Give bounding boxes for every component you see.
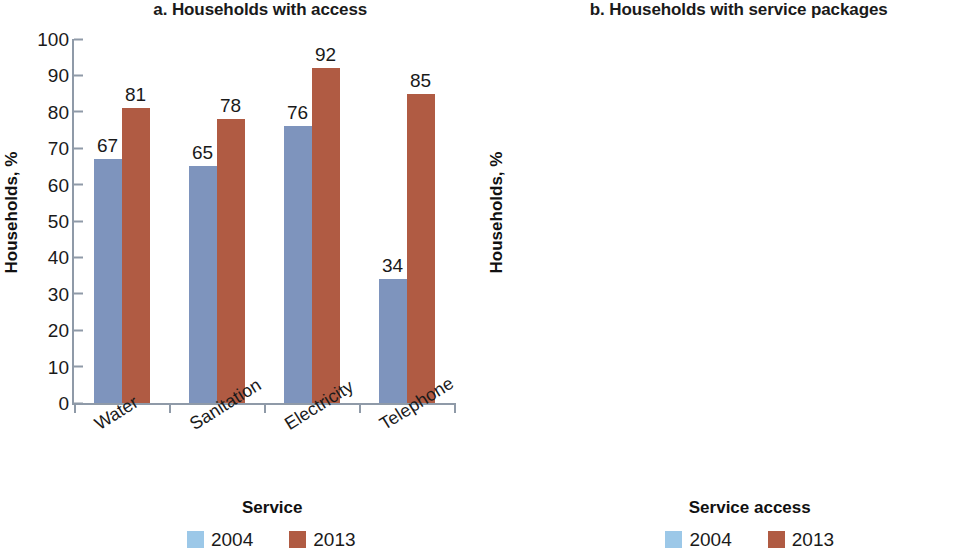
y-tick: 30 (48, 284, 74, 303)
y-tick: 0 (58, 394, 74, 413)
bar-group: 3485 (359, 39, 454, 403)
legend-label-2013: 2013 (792, 530, 834, 549)
y-tick: 100 (37, 30, 74, 49)
bar-value-label: 76 (287, 103, 308, 126)
y-tick: 70 (48, 139, 74, 158)
y-tick-label: 40 (48, 248, 74, 267)
bar-group: 6781 (74, 39, 169, 403)
legend-swatch-2004-icon (187, 531, 204, 548)
bar-2004: 34 (379, 279, 407, 403)
bar-2013: 78 (217, 119, 245, 403)
y-tick-label: 90 (48, 66, 74, 85)
bar-value-label: 67 (97, 136, 118, 159)
chart-panel-a: a. Households with access Households, % … (0, 0, 485, 560)
y-tick-label: 0 (58, 394, 74, 413)
panel-b-legend: 2004 2013 (485, 530, 969, 549)
legend-swatch-2013-icon (289, 531, 306, 548)
x-tick-mark (454, 403, 456, 413)
y-tick: 50 (48, 212, 74, 231)
y-tick: 90 (48, 66, 74, 85)
panel-a-title: a. Households with access (0, 0, 485, 20)
y-tick: 20 (48, 321, 74, 340)
panel-b-y-axis-title: Households, % (487, 30, 517, 395)
panel-a-x-axis-title: Service (0, 498, 485, 518)
panel-a-legend: 2004 2013 (0, 530, 485, 549)
y-tick-label: 60 (48, 175, 74, 194)
bar-value-label: 92 (315, 45, 336, 68)
legend-item-2004: 2004 (665, 530, 731, 549)
bar-2004: 65 (189, 166, 217, 403)
legend-swatch-2013-icon (768, 531, 785, 548)
panel-a-plot-area: 0102030405060708090100 6781657876923485 … (72, 39, 454, 405)
x-tick-mark (74, 403, 76, 413)
legend-label-2004: 2004 (211, 530, 253, 549)
chart-panel-b: b. Households with service packages Hous… (485, 0, 969, 560)
x-tick-mark (264, 403, 266, 413)
panel-b-title: b. Households with service packages (485, 0, 969, 20)
panel-a-bars: 6781657876923485 (74, 39, 454, 403)
legend-item-2013: 2013 (768, 530, 834, 549)
bar-2004: 76 (284, 126, 312, 403)
bar-2013: 81 (122, 108, 150, 403)
y-tick: 40 (48, 248, 74, 267)
legend-label-2004: 2004 (689, 530, 731, 549)
y-tick-label: 20 (48, 321, 74, 340)
bar-group: 6578 (169, 39, 264, 403)
bar-2013: 92 (312, 68, 340, 403)
bar-value-label: 34 (382, 256, 403, 279)
bar-value-label: 78 (220, 96, 241, 119)
figure: a. Households with access Households, % … (0, 0, 969, 560)
y-tick: 80 (48, 102, 74, 121)
x-tick-mark (359, 403, 361, 413)
x-tick-mark (169, 403, 171, 413)
y-tick-label: 70 (48, 139, 74, 158)
y-tick-label: 50 (48, 212, 74, 231)
legend-swatch-2004-icon (665, 531, 682, 548)
bar-2004: 67 (94, 159, 122, 403)
legend-label-2013: 2013 (313, 530, 355, 549)
legend-item-2013: 2013 (289, 530, 355, 549)
bar-2013: 85 (407, 94, 435, 403)
bar-value-label: 81 (125, 85, 146, 108)
y-tick: 10 (48, 357, 74, 376)
bar-value-label: 65 (192, 143, 213, 166)
legend-item-2004: 2004 (187, 530, 253, 549)
y-tick-label: 10 (48, 357, 74, 376)
bar-value-label: 85 (410, 71, 431, 94)
y-tick-label: 30 (48, 284, 74, 303)
bar-group: 7692 (264, 39, 359, 403)
panel-a-y-axis-title: Households, % (2, 30, 32, 395)
y-tick-label: 100 (37, 30, 74, 49)
y-tick: 60 (48, 175, 74, 194)
panel-b-x-axis-title: Service access (485, 498, 969, 518)
y-tick-label: 80 (48, 102, 74, 121)
